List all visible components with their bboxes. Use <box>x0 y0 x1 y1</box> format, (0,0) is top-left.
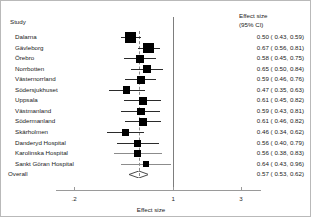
plot-area: Dalarna0.50 ( 0.43, 0.59)Gävleborg0.67 (… <box>1 1 311 217</box>
study-marker <box>137 76 145 84</box>
effect-size-value: 0.64 ( 0.43, 0.96) <box>257 161 304 167</box>
effect-size-value: 0.46 ( 0.34, 0.62) <box>257 129 304 135</box>
effect-size-value: 0.65 ( 0.50, 0.84) <box>257 66 304 72</box>
effect-size-value: 0.59 ( 0.43, 0.81) <box>257 108 304 114</box>
study-label: Västernorrland <box>15 76 56 82</box>
x-axis-tick-label: 1 <box>158 196 188 202</box>
study-marker <box>125 32 136 43</box>
study-label: Sankt Göran Hospital <box>15 161 74 167</box>
overall-effect-size-value: 0.57 ( 0.53, 0.62) <box>257 171 304 177</box>
effect-size-value: 0.67 ( 0.56, 0.81) <box>257 45 304 51</box>
study-label: Södermanland <box>15 118 55 124</box>
study-label: Karolinska Hospital <box>15 150 68 156</box>
effect-size-value: 0.47 ( 0.35, 0.63) <box>257 87 304 93</box>
x-axis-tick <box>74 187 75 190</box>
study-label: Uppsala <box>15 97 38 103</box>
x-axis-line <box>56 190 261 191</box>
null-reference-line <box>173 17 174 189</box>
study-label: Danderyd Hospital <box>15 140 66 146</box>
study-marker <box>143 65 151 73</box>
overall-diamond <box>129 171 149 178</box>
study-label: Västmanland <box>15 108 51 114</box>
x-axis-tick <box>241 187 242 190</box>
study-label: Södersjukhuset <box>15 87 58 93</box>
effect-size-value: 0.61 ( 0.46, 0.82) <box>257 118 304 124</box>
effect-size-value: 0.59 ( 0.46, 0.76) <box>257 76 304 82</box>
study-marker <box>143 43 154 54</box>
effect-size-value: 0.56 ( 0.38, 0.83) <box>257 150 304 156</box>
effect-size-value: 0.56 ( 0.40, 0.79) <box>257 140 304 146</box>
study-label: Norrbotten <box>15 66 44 72</box>
study-marker <box>122 129 130 137</box>
study-marker <box>143 161 149 167</box>
study-marker <box>134 140 141 147</box>
study-marker <box>123 86 131 94</box>
study-marker <box>139 118 147 126</box>
study-marker <box>134 150 141 157</box>
study-label: Örebro <box>15 55 34 61</box>
x-axis-tick <box>173 187 174 190</box>
study-marker <box>136 55 144 63</box>
effect-size-value: 0.58 ( 0.45, 0.75) <box>257 55 304 61</box>
effect-size-value: 0.50 ( 0.43, 0.59) <box>257 34 304 40</box>
study-label: Dalarna <box>15 34 37 40</box>
x-axis-tick-label: 3 <box>226 196 256 202</box>
x-axis-title: Effect size <box>111 207 191 213</box>
forest-plot-figure: Study Effect size (95% CI) Dalarna0.50 (… <box>0 0 311 217</box>
study-marker <box>137 108 145 116</box>
study-label: Gävleborg <box>15 45 44 51</box>
overall-label: Overall <box>8 171 28 177</box>
x-axis-tick-label: .2 <box>59 196 89 202</box>
study-marker <box>139 97 147 105</box>
effect-size-value: 0.61 ( 0.45, 0.82) <box>257 97 304 103</box>
study-label: Skärholmen <box>15 129 48 135</box>
